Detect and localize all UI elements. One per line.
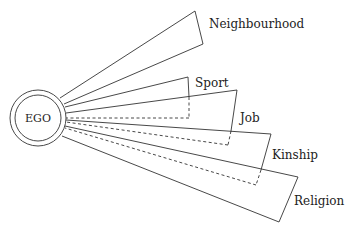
label-neighbourhood: Neighbourhood xyxy=(209,17,304,31)
sector-neighbourhood xyxy=(60,11,203,104)
ego-label: EGO xyxy=(25,112,51,125)
label-kinship: Kinship xyxy=(272,148,318,162)
label-sport: Sport xyxy=(195,76,229,90)
sector-kinship xyxy=(65,120,271,185)
label-religion: Religion xyxy=(294,194,345,208)
label-job: Job xyxy=(238,111,260,125)
sector-religion xyxy=(62,126,298,222)
ego-node: EGO xyxy=(10,90,66,146)
ego-network-diagram: EGO Neighbourhood Sport Job Kinship Reli… xyxy=(0,0,346,235)
sector-job xyxy=(66,90,237,145)
